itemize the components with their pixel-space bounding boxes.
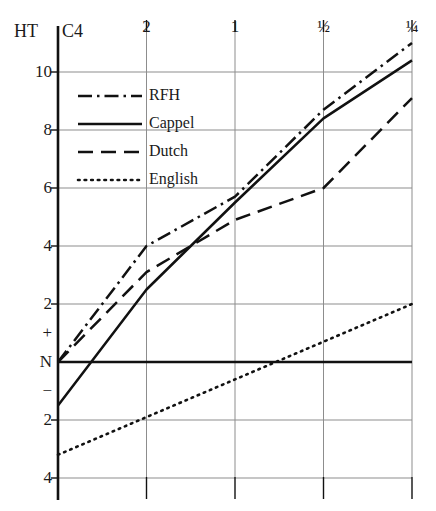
y-tick-label: 2 [0, 294, 61, 314]
y-tick-label: 4 [0, 468, 61, 488]
y-tick-label: 8 [0, 120, 61, 140]
axis-ticks [51, 20, 412, 499]
plot-canvas [0, 0, 436, 511]
legend-label-rfh: RFH [149, 87, 180, 103]
y-tick-label: 2 [0, 410, 61, 430]
y-tick-label: 4 [0, 236, 61, 256]
gridlines [58, 32, 412, 478]
legend-label-cappel: Cappel [149, 115, 194, 131]
x-tick-label: 2 [142, 18, 151, 35]
legend-line-samples [78, 96, 142, 180]
x-tick-label: ¼ [406, 18, 419, 35]
legend-label-dutch: Dutch [149, 143, 188, 159]
y-tick-label: 10 [0, 62, 61, 82]
y-tick-label: N [0, 352, 61, 372]
chart-figure: HT C4 108642+N−24 21½¼ RFHCappelDutchEng… [0, 0, 436, 511]
x-tick-label: 1 [231, 18, 240, 35]
y-tick-label: − [0, 381, 61, 401]
y-tick-label: 6 [0, 178, 61, 198]
x-tick-label: ½ [317, 18, 330, 35]
y-tick-label: + [0, 323, 61, 343]
legend-label-english: English [149, 171, 198, 187]
